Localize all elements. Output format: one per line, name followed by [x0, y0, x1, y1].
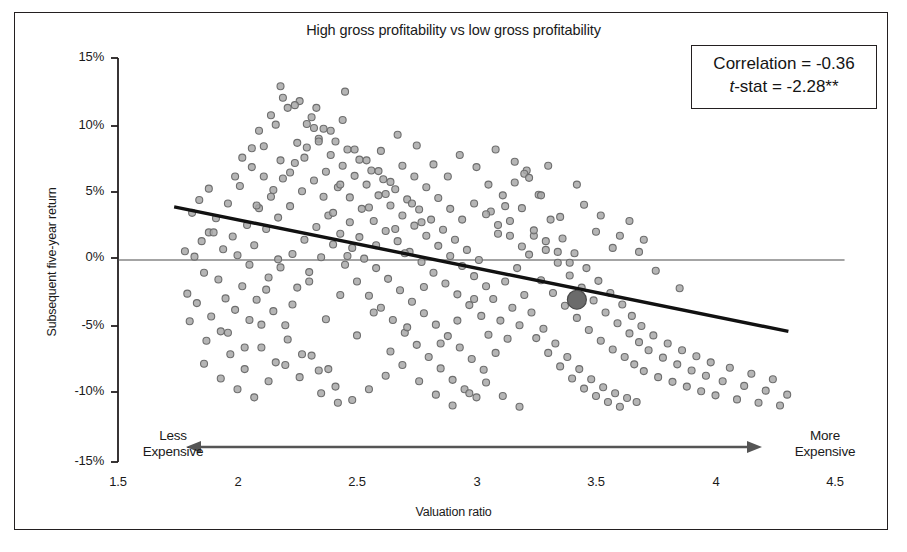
scatter-point — [593, 228, 600, 235]
scatter-point — [365, 386, 372, 393]
scatter-point — [236, 182, 243, 189]
scatter-point — [277, 157, 284, 164]
scatter-point — [322, 316, 329, 323]
scatter-point — [303, 144, 310, 151]
scatter-point — [569, 375, 576, 382]
scatter-point — [726, 364, 733, 371]
y-axis-tick-label: -10% — [42, 383, 104, 398]
scatter-point — [277, 264, 284, 271]
scatter-point — [282, 362, 289, 369]
scatter-point — [313, 104, 320, 111]
more-expensive-line2: Expensive — [770, 444, 880, 460]
scatter-point — [442, 280, 449, 287]
scatter-point — [191, 253, 198, 260]
scatter-point — [339, 162, 346, 169]
scatter-point — [471, 296, 478, 303]
scatter-point — [636, 248, 643, 255]
scatter-point — [483, 379, 490, 386]
scatter-point — [432, 321, 439, 328]
scatter-point — [368, 167, 375, 174]
scatter-point — [224, 200, 231, 207]
x-axis-title: Valuation ratio — [0, 505, 907, 519]
figure-container: High gross profitability vs low gross pr… — [0, 0, 907, 552]
scatter-point — [638, 322, 645, 329]
scatter-point — [616, 403, 623, 410]
scatter-point — [600, 384, 607, 391]
scatter-point — [466, 390, 473, 397]
scatter-point — [626, 330, 633, 337]
scatter-point — [377, 304, 384, 311]
scatter-point — [320, 193, 327, 200]
scatter-point — [528, 309, 535, 316]
scatter-point — [518, 243, 525, 250]
scatter-point — [504, 335, 511, 342]
scatter-point — [306, 278, 313, 285]
scatter-point — [483, 211, 490, 218]
scatter-point — [387, 348, 394, 355]
scatter-point — [428, 216, 435, 223]
scatter-point — [349, 397, 356, 404]
scatter-point — [318, 254, 325, 261]
scatter-point — [387, 178, 394, 185]
scatter-point — [495, 221, 502, 228]
scatter-point — [346, 194, 353, 201]
scatter-point — [669, 378, 676, 385]
scatter-point — [291, 102, 298, 109]
scatter-point — [313, 224, 320, 231]
scatter-point — [526, 174, 533, 181]
scatter-point — [542, 238, 549, 245]
scatter-point — [734, 396, 741, 403]
scatter-point — [196, 197, 203, 204]
scatter-point — [382, 372, 389, 379]
scatter-point — [363, 181, 370, 188]
scatter-point — [624, 395, 631, 402]
scatter-point — [435, 195, 442, 202]
scatter-point — [375, 168, 382, 175]
scatter-point — [621, 353, 628, 360]
scatter-point — [506, 217, 513, 224]
scatter-point — [609, 244, 616, 251]
scatter-point — [251, 394, 258, 401]
scatter-point — [284, 336, 291, 343]
y-axis-tick-label: 0% — [42, 249, 104, 264]
y-axis-tick-label: 15% — [42, 49, 104, 64]
scatter-point — [597, 337, 604, 344]
scatter-point — [573, 181, 580, 188]
scatter-point — [557, 213, 564, 220]
scatter-point — [239, 283, 246, 290]
scatter-point — [521, 292, 528, 299]
scatter-point — [769, 376, 776, 383]
scatter-point — [289, 301, 296, 308]
x-axis-tick-label: 3 — [447, 474, 507, 489]
scatter-point — [581, 201, 588, 208]
scatter-point — [258, 321, 265, 328]
scatter-point — [614, 320, 621, 327]
scatter-point — [361, 255, 368, 262]
scatter-point — [320, 125, 327, 132]
scatter-point — [454, 317, 461, 324]
scatter-point — [473, 164, 480, 171]
scatter-point — [628, 312, 635, 319]
scatter-point — [440, 226, 447, 233]
scatter-point — [423, 232, 430, 239]
y-axis-tick-label: 10% — [42, 117, 104, 132]
scatter-point — [404, 324, 411, 331]
scatter-point — [327, 127, 334, 134]
scatter-point — [540, 325, 547, 332]
scatter-point — [516, 403, 523, 410]
scatter-point — [334, 399, 341, 406]
scatter-point — [181, 248, 188, 255]
scatter-point — [640, 368, 647, 375]
scatter-point — [327, 151, 334, 158]
scatter-point — [246, 316, 253, 323]
scatter-point — [256, 127, 263, 134]
scatter-point — [473, 394, 480, 401]
more-expensive-annotation: More Expensive — [770, 428, 880, 459]
scatter-point — [365, 204, 372, 211]
scatter-point — [411, 222, 418, 229]
scatter-point — [554, 259, 561, 266]
scatter-point — [234, 252, 241, 259]
scatter-point — [385, 275, 392, 282]
statistics-box: Correlation = -0.36 t-stat = -2.28** — [691, 45, 877, 109]
scatter-point — [583, 265, 590, 272]
